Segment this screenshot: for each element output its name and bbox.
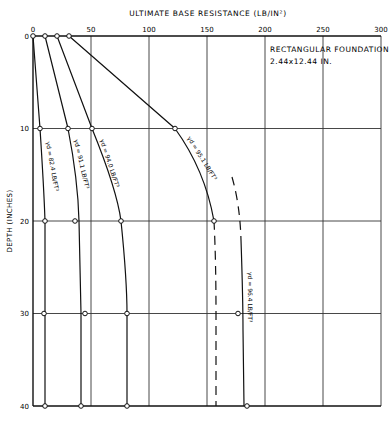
y-tick: 20 [20,218,29,226]
x-tick: 200 [258,26,271,34]
y-axis-label: DEPTH (INCHES) [6,189,14,252]
y-tick-labels: 0 10 20 30 40 [20,33,29,411]
label-96-4: γd = 96.4 LB/FT³ [246,272,254,323]
chart-title: ULTIMATE BASE RESISTANCE (LB/IN²) [129,9,286,18]
label-95-1: γd = 95.1 LB/FT³ [185,135,219,182]
curve-96-4-dashed [232,177,241,240]
y-tick: 10 [20,125,29,133]
y-tick: 30 [20,310,29,318]
annotation-line1: RECTANGULAR FOUNDATION [270,45,389,54]
grid [33,36,381,406]
label-91-1: γd = 91.1 LB/FT³ [72,139,91,190]
x-tick: 250 [316,26,329,34]
label-94-0: γd = 94.0 LB/FT³ [98,138,121,189]
x-tick: 100 [142,26,155,34]
annotation-line2: 2.44x12.44 IN. [270,57,332,66]
x-tick-labels: 0 50 100 150 200 250 300 [31,26,388,34]
curve-96-4-solid [241,240,244,406]
label-82-4: γd = 82.4 LB/FT³ [44,141,61,193]
chart: ULTIMATE BASE RESISTANCE (LB/IN²) 0 50 1… [0,0,392,422]
y-tick: 40 [20,403,29,411]
x-tick: 150 [200,26,213,34]
x-tick: 300 [374,26,387,34]
y-tick: 0 [25,33,29,41]
x-tick: 0 [31,26,35,34]
x-tick: 50 [87,26,96,34]
